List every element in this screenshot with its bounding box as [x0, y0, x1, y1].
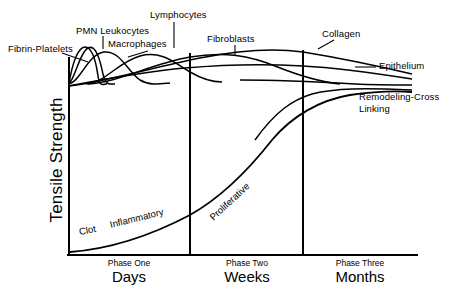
curve-epithelium: [69, 65, 412, 86]
phase-two-name: Phase Two: [187, 258, 307, 268]
phase-one-name: Phase One: [69, 258, 189, 268]
phase-two-unit: Weeks: [187, 268, 307, 285]
leader-collagen: [318, 40, 334, 49]
label-collagen: Collagen: [322, 28, 360, 39]
label-pmn-leukocytes: PMN Leukocytes: [76, 25, 149, 36]
phase-one-unit: Days: [69, 268, 189, 285]
label-fibrin-platelets: Fibrin-Platelets: [8, 43, 73, 54]
label-macrophages: Macrophages: [108, 38, 167, 49]
phase-three-block: Phase Three Months: [300, 258, 420, 285]
phase-one-block: Phase One Days: [69, 258, 189, 285]
y-axis-title: Tensile Strength: [47, 65, 67, 255]
label-fibroblasts: Fibroblasts: [207, 33, 255, 44]
curve-epithelium-tail: [240, 80, 412, 85]
tensile-strength-curve-group: [70, 91, 412, 252]
label-epithelium: Epithelium: [379, 60, 424, 71]
label-remodeling-cross: Remodeling-Cross: [359, 91, 439, 102]
phase-three-name: Phase Three: [300, 258, 420, 268]
label-remodeling-linking: Linking: [359, 103, 390, 114]
label-lymphocytes: Lymphocytes: [150, 9, 207, 20]
curve-tensile-strength: [70, 91, 412, 252]
phase-three-unit: Months: [300, 268, 420, 285]
phase-two-block: Phase Two Weeks: [187, 258, 307, 285]
